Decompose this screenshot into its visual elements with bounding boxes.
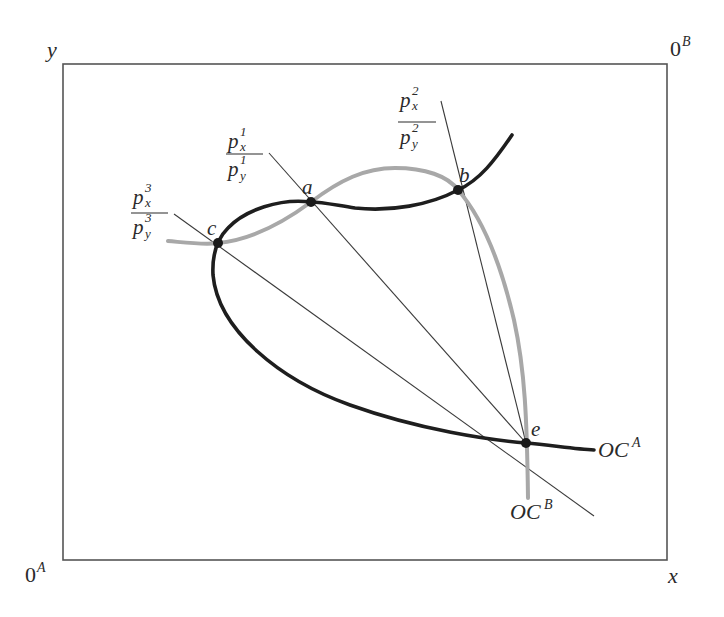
p1-den-sup: 1	[240, 152, 247, 167]
point-b-label: b	[459, 163, 470, 187]
oc-b-base: OC	[510, 499, 541, 524]
p1-den-sub: y	[238, 168, 246, 183]
y-axis-label: y	[45, 37, 57, 62]
offer-curve-a-label: OC A	[598, 435, 641, 462]
p1-num-base: p	[226, 129, 239, 153]
offer-curve-b	[168, 168, 528, 498]
p2-den-sup: 2	[412, 120, 419, 135]
p1-den-base: p	[226, 157, 239, 181]
p3-num-sub: x	[144, 195, 151, 210]
point-a-label: a	[302, 175, 313, 199]
offer-curve-a	[213, 135, 594, 450]
point-c-label: c	[207, 216, 217, 240]
origin-a-sup: A	[36, 560, 46, 575]
p3-den-base: p	[131, 215, 144, 239]
p2-num-sub: x	[411, 98, 418, 113]
oc-b-sup: B	[544, 497, 553, 512]
point-e-label: e	[531, 417, 540, 441]
price-line-2	[441, 101, 526, 443]
x-axis-label: x	[667, 563, 678, 588]
p3-den-sup: 3	[144, 210, 152, 225]
origin-b-base: 0	[670, 36, 681, 61]
point-e	[521, 438, 531, 448]
p2-den-base: p	[398, 125, 411, 149]
origin-b-label: 0 B	[670, 34, 691, 61]
p3-den-sub: y	[143, 226, 151, 241]
price-ratio-1: p 1 x p 1 y	[226, 124, 263, 183]
edgeworth-box-diagram: c a b e y x 0 A 0 B OC A OC B p 3 x p 3 …	[0, 0, 724, 617]
edgeworth-box-frame	[63, 64, 667, 560]
p3-num-sup: 3	[144, 180, 152, 195]
origin-a-base: 0	[25, 562, 36, 587]
origin-a-label: 0 A	[25, 560, 46, 587]
origin-b-sup: B	[682, 34, 691, 49]
price-ratio-2: p 2 x p 2 y	[398, 83, 436, 151]
p2-num-sup: 2	[412, 83, 419, 98]
p2-den-sub: y	[410, 136, 418, 151]
p3-num-base: p	[131, 185, 144, 209]
offer-curve-b-label: OC B	[510, 497, 553, 524]
p2-num-base: p	[398, 88, 411, 112]
p1-num-sup: 1	[240, 124, 247, 139]
price-ratio-3: p 3 x p 3 y	[131, 180, 168, 241]
price-line-3	[174, 214, 594, 516]
oc-a-base: OC	[598, 437, 629, 462]
oc-a-sup: A	[631, 435, 641, 450]
